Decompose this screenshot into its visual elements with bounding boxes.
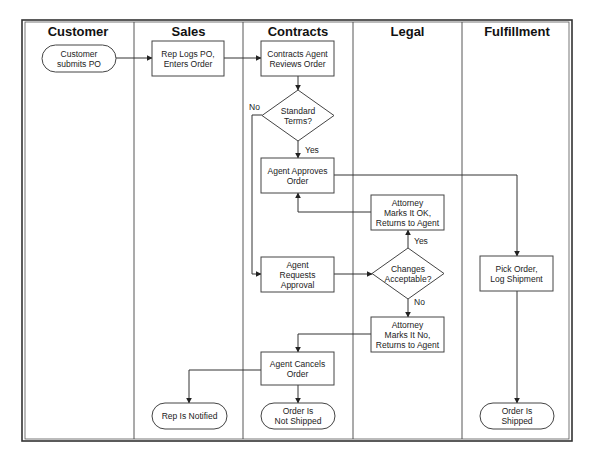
- node-label: Contracts Agent: [267, 49, 328, 59]
- node-process: Agent CancelsOrder: [261, 352, 334, 385]
- node-label: Returns to Agent: [376, 340, 440, 350]
- node-label: Agent: [286, 260, 309, 270]
- node-process: Contracts AgentReviews Order: [261, 41, 334, 76]
- node-process: AttorneyMarks It OK,Returns to Agent: [371, 195, 444, 230]
- node-label: Pick Order,: [495, 264, 537, 274]
- node-process: Agent ApprovesOrder: [261, 158, 334, 193]
- node-label: Standard: [281, 106, 316, 116]
- node-label: Marks It No,: [385, 330, 431, 340]
- node-label: Reviews Order: [269, 59, 325, 69]
- node-label: Returns to Agent: [376, 218, 440, 228]
- edge-label: Yes: [414, 236, 428, 246]
- node-label: Attorney: [392, 198, 424, 208]
- node-label: Agent Approves: [267, 166, 327, 176]
- node-label: Order Is: [502, 406, 533, 416]
- node-label: Rep Is Notified: [162, 411, 218, 421]
- lane-title: Fulfillment: [484, 24, 550, 39]
- node-label: Attorney: [392, 320, 424, 330]
- node-terminal: Rep Is Notified: [152, 403, 227, 429]
- node-label: Order Is: [283, 406, 314, 416]
- node-process: AgentRequestsApproval: [261, 257, 334, 292]
- node-label: Changes: [391, 264, 425, 274]
- lane-title: Contracts: [268, 24, 329, 39]
- edge-label: No: [249, 102, 260, 112]
- node-label: Customer: [61, 49, 98, 59]
- swimlane-diagram: CustomerSalesContractsLegalFulfillment Y…: [0, 0, 592, 459]
- node-label: Order: [287, 176, 309, 186]
- edge-label: Yes: [305, 145, 319, 155]
- edge-label: No: [414, 297, 425, 307]
- node-label: Order: [287, 369, 309, 379]
- node-label: Terms?: [284, 116, 312, 126]
- node-label: Approval: [281, 280, 315, 290]
- node-label: Log Shipment: [490, 274, 543, 284]
- node-label: Enters Order: [164, 59, 213, 69]
- node-label: Not Shipped: [275, 416, 322, 426]
- lane-title: Customer: [48, 24, 109, 39]
- node-label: Shipped: [501, 416, 532, 426]
- node-process: AttorneyMarks It No,Returns to Agent: [371, 317, 444, 352]
- node-process: Rep Logs PO,Enters Order: [152, 41, 224, 76]
- node-label: submits PO: [57, 59, 101, 69]
- lane-title: Legal: [391, 24, 425, 39]
- node-label: Rep Logs PO,: [161, 49, 214, 59]
- node-label: Requests: [280, 270, 316, 280]
- node-terminal: Customersubmits PO: [42, 45, 116, 72]
- node-terminal: Order IsShipped: [480, 403, 554, 429]
- lane-title: Sales: [172, 24, 206, 39]
- node-terminal: Order IsNot Shipped: [261, 403, 335, 429]
- node-process: Pick Order,Log Shipment: [480, 256, 553, 291]
- node-label: Agent Cancels: [270, 359, 325, 369]
- lane-customer: Customer: [48, 24, 109, 39]
- node-label: Acceptable?: [385, 274, 432, 284]
- node-label: Marks It OK,: [384, 208, 431, 218]
